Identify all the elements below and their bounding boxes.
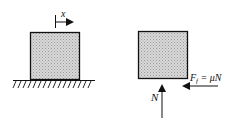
normal-force-label: N xyxy=(150,91,159,103)
block-right xyxy=(139,32,188,79)
friction-diagram: x N Ff = μN xyxy=(0,0,236,124)
friction-force-label: Ff = μN xyxy=(189,72,223,85)
right-panel: N Ff = μN xyxy=(139,32,223,119)
displacement-label: x xyxy=(60,8,66,19)
block-left xyxy=(31,33,80,80)
ground-hatching xyxy=(13,81,91,88)
left-panel: x xyxy=(13,8,95,88)
